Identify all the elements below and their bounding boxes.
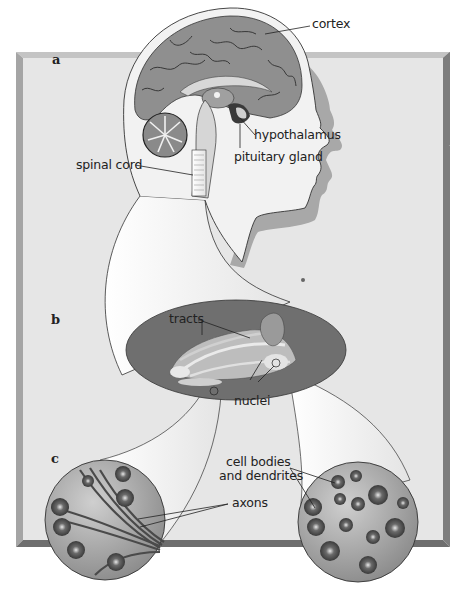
panel-label-c: c bbox=[51, 451, 59, 466]
label-axons: axons bbox=[232, 495, 268, 510]
speck bbox=[301, 278, 305, 282]
panel-label-a: a bbox=[52, 52, 60, 67]
label-cell-bodies: cell bodies bbox=[226, 454, 290, 469]
label-cortex: cortex bbox=[312, 16, 350, 31]
panel-label-b: b bbox=[51, 312, 60, 327]
figure-illustration bbox=[0, 0, 462, 591]
label-hypothalamus: hypothalamus bbox=[254, 127, 341, 142]
label-and-dendrites: and dendrites bbox=[219, 468, 303, 483]
label-pituitary-gland: pituitary gland bbox=[234, 149, 323, 164]
label-tracts: tracts bbox=[169, 311, 204, 326]
label-nuclei: nuclei bbox=[234, 393, 270, 408]
nervous-system-figure: a b c cortex hypothalamus pituitary glan… bbox=[0, 0, 462, 591]
spinal-cord bbox=[192, 150, 206, 196]
label-spinal-cord: spinal cord bbox=[76, 157, 142, 172]
